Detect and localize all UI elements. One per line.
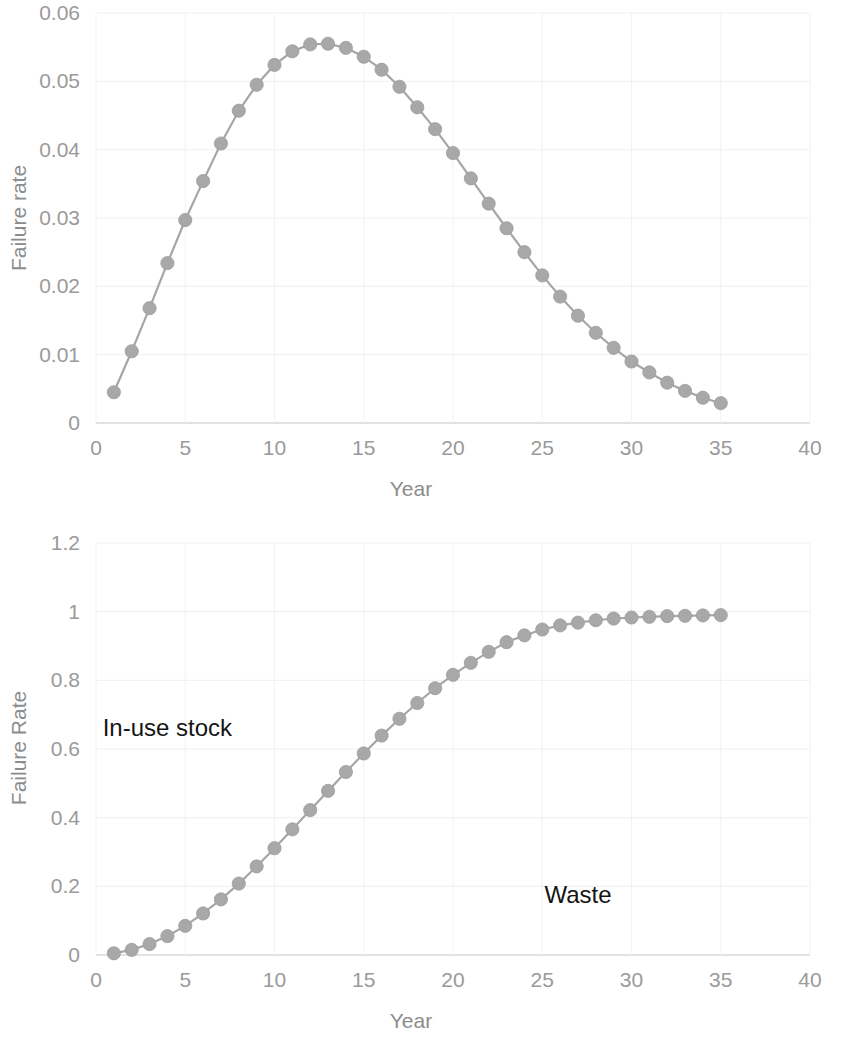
data-point-marker — [500, 222, 513, 235]
x-axis-tick-label: 20 — [441, 968, 464, 991]
data-point-marker — [446, 146, 459, 159]
data-point-marker — [357, 747, 370, 760]
data-point-marker — [625, 355, 638, 368]
data-point-marker — [482, 645, 495, 658]
data-point-marker — [214, 137, 227, 150]
data-point-marker — [393, 712, 406, 725]
x-axis-tick-label: 10 — [263, 968, 286, 991]
x-axis-tick-label: 20 — [441, 436, 464, 459]
data-point-marker — [357, 50, 370, 63]
data-point-marker — [696, 609, 709, 622]
x-axis-tick-label: 0 — [90, 968, 102, 991]
data-point-marker — [179, 213, 192, 226]
data-point-marker — [607, 341, 620, 354]
data-point-marker — [571, 616, 584, 629]
y-axis-tick-label: 0.02 — [39, 274, 80, 297]
data-point-marker — [714, 609, 727, 622]
x-axis-tick-label: 25 — [531, 968, 554, 991]
data-point-marker — [286, 45, 299, 58]
data-point-marker — [661, 610, 674, 623]
data-point-marker — [161, 930, 174, 943]
y-axis-title: Failure rate — [7, 165, 30, 271]
data-point-marker — [625, 611, 638, 624]
x-axis-tick-label: 30 — [620, 968, 643, 991]
data-point-marker — [429, 123, 442, 136]
data-point-marker — [321, 37, 334, 50]
data-point-marker — [411, 696, 424, 709]
series-line — [114, 44, 721, 403]
x-axis-tick-label: 30 — [620, 436, 643, 459]
data-point-marker — [446, 668, 459, 681]
data-point-marker — [375, 729, 388, 742]
data-point-marker — [589, 326, 602, 339]
data-point-marker — [518, 629, 531, 642]
data-point-marker — [125, 943, 138, 956]
y-axis-tick-label: 0.2 — [51, 874, 80, 897]
chart-failure-rate-pdf: 00.010.020.030.040.050.06051015202530354… — [0, 0, 842, 510]
data-point-marker — [107, 947, 120, 960]
data-point-marker — [643, 366, 656, 379]
data-point-marker — [607, 612, 620, 625]
y-axis-tick-label: 0 — [68, 943, 80, 966]
y-axis-tick-label: 0.06 — [39, 1, 80, 24]
y-axis-tick-label: 0.04 — [39, 138, 80, 161]
y-axis-tick-label: 0.05 — [39, 69, 80, 92]
y-axis-title: Failure Rate — [7, 691, 30, 805]
data-point-marker — [232, 104, 245, 117]
x-axis-tick-label: 25 — [531, 436, 554, 459]
data-point-marker — [589, 614, 602, 627]
chart-cumulative-failure-rate: 00.20.40.60.811.20510152025303540YearFai… — [0, 520, 842, 1039]
x-axis-title: Year — [390, 477, 432, 500]
y-axis-tick-label: 0.03 — [39, 206, 80, 229]
data-point-marker — [536, 269, 549, 282]
data-point-marker — [554, 619, 567, 632]
data-point-marker — [536, 623, 549, 636]
series-line — [114, 615, 721, 953]
y-axis-tick-label: 0.4 — [51, 806, 81, 829]
data-point-marker — [107, 386, 120, 399]
y-axis-tick-label: 0.6 — [51, 737, 80, 760]
data-point-marker — [464, 656, 477, 669]
data-point-marker — [179, 919, 192, 932]
x-axis-tick-label: 35 — [709, 436, 732, 459]
data-point-marker — [643, 610, 656, 623]
data-point-marker — [464, 172, 477, 185]
data-point-marker — [268, 58, 281, 71]
data-point-marker — [339, 765, 352, 778]
y-axis-tick-label: 0.8 — [51, 668, 80, 691]
x-axis-tick-label: 15 — [352, 436, 375, 459]
x-axis-tick-label: 15 — [352, 968, 375, 991]
y-axis-tick-label: 0 — [68, 411, 80, 434]
data-point-marker — [375, 63, 388, 76]
data-point-marker — [678, 609, 691, 622]
x-axis-tick-label: 35 — [709, 968, 732, 991]
failure-rate-pdf-plot: 00.010.020.030.040.050.06051015202530354… — [0, 0, 842, 510]
data-point-marker — [518, 246, 531, 259]
cumulative-failure-rate-plot: 00.20.40.60.811.20510152025303540YearFai… — [0, 520, 842, 1039]
region-annotation-label: In-use stock — [103, 714, 233, 741]
data-point-marker — [197, 175, 210, 188]
y-axis-tick-label: 1 — [68, 600, 80, 623]
x-axis-tick-label: 5 — [179, 436, 191, 459]
data-point-marker — [678, 384, 691, 397]
data-point-marker — [554, 290, 567, 303]
data-point-marker — [250, 860, 263, 873]
y-axis-tick-label: 1.2 — [51, 531, 80, 554]
data-point-marker — [232, 877, 245, 890]
data-point-marker — [143, 302, 156, 315]
y-axis-tick-label: 0.01 — [39, 343, 80, 366]
data-point-marker — [482, 197, 495, 210]
data-point-marker — [393, 80, 406, 93]
data-point-marker — [339, 41, 352, 54]
data-point-marker — [321, 784, 334, 797]
data-point-marker — [197, 907, 210, 920]
data-point-marker — [304, 804, 317, 817]
data-point-marker — [696, 391, 709, 404]
data-point-marker — [286, 823, 299, 836]
data-point-marker — [125, 345, 138, 358]
x-axis-tick-label: 5 — [179, 968, 191, 991]
data-point-marker — [143, 937, 156, 950]
data-point-marker — [304, 38, 317, 51]
region-annotation-label: Waste — [544, 881, 611, 908]
x-axis-tick-label: 40 — [798, 968, 821, 991]
